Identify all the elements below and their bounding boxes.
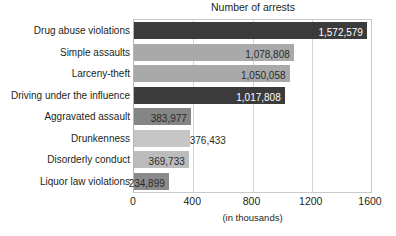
- bar: 234,899: [134, 173, 169, 190]
- bar-row: Disorderly conduct369,733: [134, 149, 371, 171]
- bar: 369,733: [134, 151, 189, 168]
- category-label: Liquor law violations: [40, 174, 130, 189]
- bar-row: Simple assaults1,078,808: [134, 42, 371, 64]
- bar: 376,433: [134, 130, 190, 147]
- bar-chart: Number of arrests Drug abuse violations1…: [0, 0, 396, 236]
- bar: 1,572,579: [134, 22, 367, 39]
- bar: 1,050,058: [134, 65, 290, 82]
- bar-value-label: 1,017,808: [236, 90, 281, 105]
- category-label: Simple assaults: [60, 45, 130, 60]
- bar-row: Drunkenness376,433: [134, 128, 371, 150]
- bar-value-label: 1,572,579: [318, 25, 363, 40]
- bar-value-label: 376,433: [190, 133, 226, 148]
- bar-value-label: 1,078,808: [245, 47, 290, 62]
- bar: 383,977: [134, 108, 191, 125]
- bar: 1,017,808: [134, 87, 285, 104]
- x-tick-label: 400: [183, 194, 201, 208]
- category-label: Drug abuse violations: [34, 23, 130, 38]
- bar-value-label: 383,977: [151, 111, 187, 126]
- plot-area: Drug abuse violations1,572,579Simple ass…: [133, 19, 372, 193]
- bar-row: Larceny-theft1,050,058: [134, 63, 371, 85]
- bar: 1,078,808: [134, 44, 294, 61]
- x-tick-label: 1200: [299, 194, 322, 208]
- category-label: Drunkenness: [71, 131, 130, 146]
- bar-row: Driving under the influence1,017,808: [134, 85, 371, 107]
- bar-row: Liquor law violations234,899: [134, 171, 371, 193]
- chart-title: Number of arrests: [133, 1, 373, 14]
- category-label: Driving under the influence: [11, 88, 130, 103]
- bar-row: Aggravated assault383,977: [134, 106, 371, 128]
- bar-value-label: 234,899: [129, 176, 165, 191]
- bar-value-label: 369,733: [149, 154, 185, 169]
- x-tick-label: 0: [130, 194, 136, 208]
- x-tick-label: 1600: [358, 194, 381, 208]
- x-axis: 040080012001600: [133, 194, 372, 210]
- category-label: Disorderly conduct: [47, 152, 130, 167]
- bar-row: Drug abuse violations1,572,579: [134, 20, 371, 42]
- bar-value-label: 1,050,058: [241, 68, 286, 83]
- x-axis-label: (in thousands): [133, 212, 372, 224]
- category-label: Aggravated assault: [44, 109, 130, 124]
- category-label: Larceny-theft: [72, 66, 130, 81]
- x-tick-label: 800: [243, 194, 261, 208]
